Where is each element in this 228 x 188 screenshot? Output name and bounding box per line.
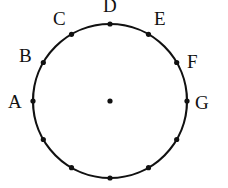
point-g [184,98,189,103]
label-d: D [103,0,117,16]
label-a: A [8,91,22,112]
point-d [107,21,112,26]
point-unlabeled [41,137,46,142]
point-b [41,60,46,65]
point-c [69,32,74,37]
point-unlabeled [107,175,112,180]
label-e: E [154,8,166,29]
label-c: C [53,8,66,29]
point-e [146,32,151,37]
point-unlabeled [146,165,151,170]
point-f [174,60,179,65]
label-f: F [187,51,198,72]
label-b: B [19,45,32,66]
point-unlabeled [69,165,74,170]
point-a [30,98,35,103]
center-point [107,98,112,103]
label-g: G [195,92,209,113]
point-unlabeled [174,137,179,142]
circle-diagram: A B C D E F G [0,0,228,188]
